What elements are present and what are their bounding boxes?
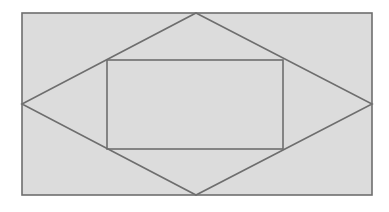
outer-rectangle — [22, 13, 372, 195]
diagram-canvas — [0, 0, 389, 212]
